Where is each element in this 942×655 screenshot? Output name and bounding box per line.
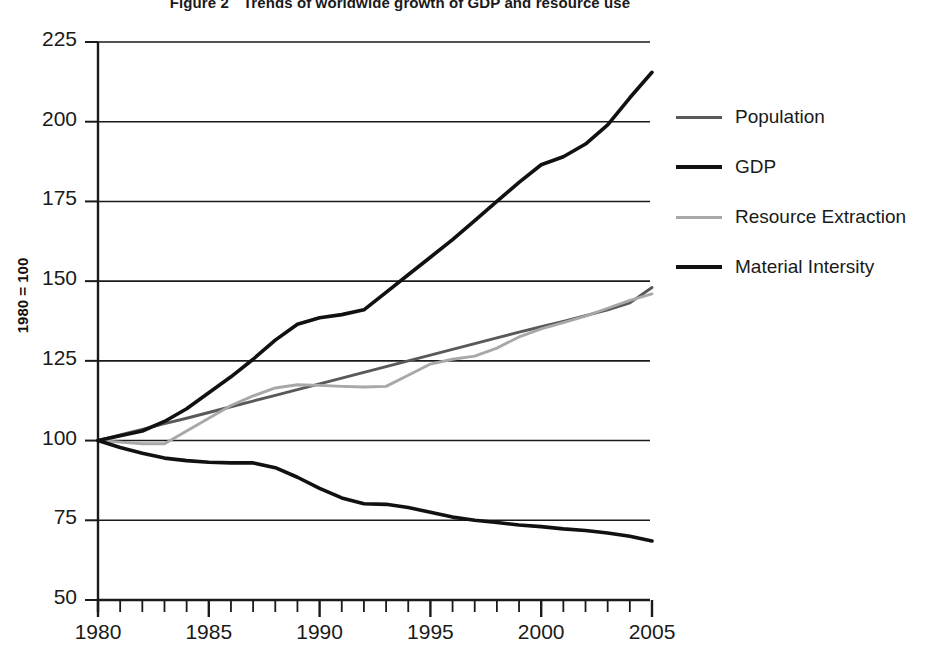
y-tick-label-150: 150 bbox=[25, 266, 77, 290]
legend-line-swatch-icon bbox=[676, 265, 722, 269]
y-tick-label-175: 175 bbox=[25, 186, 77, 210]
y-tick-label-100: 100 bbox=[25, 426, 77, 450]
legend-item-material-intersity[interactable]: Material Intersity bbox=[676, 242, 942, 292]
legend-item-label: GDP bbox=[735, 156, 776, 178]
x-tick-label-1995: 1995 bbox=[390, 620, 470, 644]
legend-line-swatch-icon bbox=[676, 165, 722, 169]
y-tick-label-125: 125 bbox=[25, 346, 77, 370]
legend-item-gdp[interactable]: GDP bbox=[676, 142, 942, 192]
legend-item-label: Material Intersity bbox=[735, 256, 874, 278]
legend-item-resource-extraction[interactable]: Resource Extraction bbox=[676, 192, 942, 242]
legend-item-population[interactable]: Population bbox=[676, 92, 942, 142]
x-tick-label-2005: 2005 bbox=[612, 620, 692, 644]
x-tick-label-1980: 1980 bbox=[58, 620, 138, 644]
x-tick-label-1985: 1985 bbox=[169, 620, 249, 644]
y-tick-label-225: 225 bbox=[25, 27, 77, 51]
legend-line-swatch-icon bbox=[676, 116, 722, 119]
series-line-population bbox=[98, 288, 652, 441]
data-series-group bbox=[98, 72, 652, 541]
y-tick-label-50: 50 bbox=[25, 585, 77, 609]
x-tick-label-2000: 2000 bbox=[501, 620, 581, 644]
y-axis-ticks bbox=[85, 42, 98, 600]
legend-line-swatch-icon bbox=[676, 216, 722, 219]
x-tick-label-1990: 1990 bbox=[280, 620, 360, 644]
legend-item-label: Resource Extraction bbox=[735, 206, 906, 228]
x-axis-ticks bbox=[98, 600, 652, 617]
chart-legend: PopulationGDPResource ExtractionMaterial… bbox=[676, 92, 942, 292]
y-tick-label-75: 75 bbox=[25, 505, 77, 529]
figure-container: Figure 2Trends of worldwide growth of GD… bbox=[0, 0, 942, 655]
y-tick-label-200: 200 bbox=[25, 107, 77, 131]
series-line-material-intersity bbox=[98, 441, 652, 541]
legend-item-label: Population bbox=[735, 106, 825, 128]
